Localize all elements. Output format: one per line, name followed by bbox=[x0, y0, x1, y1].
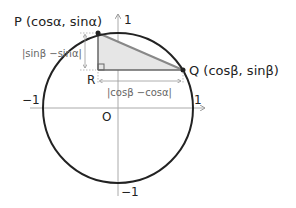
unit-circle-diagram: P (cosα, sinα) Q (cosβ, sinβ) R O 1 1 −1… bbox=[0, 0, 296, 208]
point-p bbox=[96, 31, 101, 36]
point-q bbox=[181, 68, 186, 73]
label-origin: O bbox=[102, 110, 111, 124]
label-p: P (cosα, sinα) bbox=[14, 14, 102, 29]
label-horizontal-distance: |cosβ −cosα| bbox=[107, 87, 172, 99]
label-q: Q (cosβ, sinβ) bbox=[189, 63, 279, 78]
label-x-right: 1 bbox=[194, 93, 202, 107]
label-y-bottom: −1 bbox=[121, 185, 139, 199]
label-y-top: 1 bbox=[124, 13, 132, 27]
label-r: R bbox=[87, 73, 95, 87]
label-vertical-distance: |sinβ −sinα| bbox=[22, 48, 82, 60]
label-x-left: −1 bbox=[22, 93, 40, 107]
